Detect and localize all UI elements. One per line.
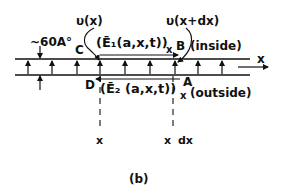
tick-x-label: x: [96, 134, 103, 147]
velocity-x-label: υ(x): [76, 14, 103, 28]
tick-x2-label: x: [164, 134, 171, 147]
velocity-x-dx-label: υ(x+dx): [166, 14, 219, 28]
figure-caption: (b): [129, 172, 149, 186]
E2-label: (Ē₂ (a,x,t)): [100, 81, 176, 96]
x-axis-label: x: [257, 52, 265, 66]
point-D-label: D: [85, 78, 95, 92]
outside-label: (outside): [190, 86, 251, 100]
thickness-label: ~60A°: [30, 35, 72, 49]
E2-subscript: x: [180, 90, 187, 101]
point-B-label: B: [176, 39, 185, 53]
membrane-diagram: ~60A° x υ(x) υ(x+dx) C (Ē₁(a,x,t)) x B (…: [0, 0, 281, 191]
point-C-label: C: [75, 43, 84, 57]
field-arrows: [28, 61, 222, 74]
E1-subscript: x: [166, 44, 173, 55]
E1-label: (Ē₁(a,x,t)): [96, 35, 168, 50]
tick-dx-label: dx: [178, 134, 193, 147]
inside-label: (inside): [190, 39, 242, 53]
